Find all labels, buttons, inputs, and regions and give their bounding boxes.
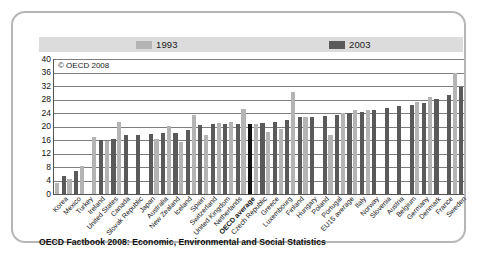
bar-2003 — [198, 125, 202, 194]
bar-group — [154, 59, 165, 194]
bar-2003 — [62, 176, 66, 194]
bar-group — [266, 59, 277, 194]
bar-group — [130, 59, 141, 194]
y-axis: 0481216202428323640 — [31, 53, 51, 200]
bar-group — [142, 59, 153, 194]
legend-swatch-2003 — [329, 41, 345, 49]
bar-group — [92, 59, 103, 194]
bar-2003 — [372, 110, 376, 194]
bar-2003 — [161, 133, 165, 194]
bar-group — [241, 59, 252, 194]
bar-2003 — [186, 130, 190, 194]
bar-1993 — [366, 110, 370, 194]
bar-group — [279, 59, 290, 194]
chart-legend: 1993 2003 — [39, 37, 463, 52]
y-axis-tick-12: 12 — [42, 149, 51, 158]
x-axis: KoreaMexicoTurkeyIrelandUnited StatesCan… — [53, 195, 465, 243]
bar-2003 — [323, 116, 327, 194]
plot-area: © OECD 2008 — [53, 59, 464, 195]
bar-group — [316, 59, 327, 194]
bar-1993 — [55, 183, 59, 194]
bar-1993 — [167, 126, 171, 195]
bar-2003 — [310, 117, 314, 194]
bar-2003 — [447, 95, 451, 194]
bar-2003 — [410, 105, 414, 194]
y-axis-tick-32: 32 — [42, 82, 51, 91]
legend-label-1993: 1993 — [156, 39, 178, 50]
bar-group — [192, 59, 203, 194]
bar-group — [179, 59, 190, 194]
bar-2003 — [459, 87, 463, 194]
bar-2003 — [360, 112, 364, 194]
figure-frame: 1993 2003 0481216202428323640 © OECD 200… — [11, 11, 466, 243]
bar-2003 — [236, 124, 240, 194]
bar-2003 — [397, 106, 401, 194]
bar-group — [117, 59, 128, 194]
bar-1993 — [154, 139, 158, 194]
bar-1993 — [291, 92, 295, 194]
bar-group — [105, 59, 116, 194]
bar-2003 — [298, 117, 302, 194]
bar-1993 — [80, 166, 84, 194]
bar-group — [167, 59, 178, 194]
bar-group — [415, 59, 426, 194]
bar-group — [328, 59, 339, 194]
bar-group — [390, 59, 401, 194]
y-axis-tick-20: 20 — [42, 122, 51, 131]
y-axis-tick-28: 28 — [42, 95, 51, 104]
bar-2003 — [149, 134, 153, 194]
bar-group — [403, 59, 414, 194]
bar-1993 — [279, 129, 283, 194]
bar-1993 — [303, 117, 307, 194]
bar-2003 — [211, 124, 215, 194]
bar-1993 — [428, 97, 432, 194]
bar-2003 — [248, 124, 252, 194]
bar-2003 — [422, 103, 426, 194]
bar-group — [453, 59, 464, 194]
bar-2003 — [385, 108, 389, 194]
legend-entry-2003: 2003 — [329, 37, 371, 52]
y-axis-tick-36: 36 — [42, 68, 51, 77]
bar-group — [254, 59, 265, 194]
bar-group — [353, 59, 364, 194]
bar-group — [440, 59, 451, 194]
bar-2003 — [335, 115, 339, 194]
bar-series-container — [54, 59, 464, 194]
bar-2003 — [347, 113, 351, 194]
figure-caption: OECD Factbook 2008: Economic, Environmen… — [39, 237, 326, 247]
bar-group — [303, 59, 314, 194]
bar-group — [428, 59, 439, 194]
bar-group — [229, 59, 240, 194]
bar-1993 — [117, 122, 121, 194]
bar-2003 — [285, 120, 289, 194]
bar-1993 — [415, 102, 419, 194]
bar-1993 — [92, 137, 96, 194]
y-axis-tick-24: 24 — [42, 109, 51, 118]
bar-2003 — [173, 133, 177, 194]
bar-1993 — [328, 135, 332, 194]
bar-group — [204, 59, 215, 194]
y-axis-tick-40: 40 — [42, 55, 51, 64]
bar-1993 — [217, 123, 221, 194]
y-axis-tick-8: 8 — [46, 163, 51, 172]
y-axis-tick-0: 0 — [46, 190, 51, 199]
legend-swatch-1993 — [136, 41, 152, 49]
y-axis-tick-4: 4 — [46, 176, 51, 185]
bar-1993 — [105, 141, 109, 194]
bar-2003 — [260, 123, 264, 194]
bar-2003 — [74, 171, 78, 194]
bar-1993 — [229, 122, 233, 194]
bar-1993 — [179, 142, 183, 194]
bar-group — [291, 59, 302, 194]
bar-group — [80, 59, 91, 194]
screenshot-root: 1993 2003 0481216202428323640 © OECD 200… — [0, 0, 484, 266]
bar-group — [55, 59, 66, 194]
legend-entry-1993: 1993 — [136, 37, 178, 52]
bar-1993 — [341, 113, 345, 194]
bar-2003 — [273, 122, 277, 194]
y-axis-tick-16: 16 — [42, 136, 51, 145]
bar-2003 — [434, 99, 438, 194]
legend-label-2003: 2003 — [349, 39, 371, 50]
bar-group — [67, 59, 78, 194]
bar-1993 — [241, 109, 245, 194]
